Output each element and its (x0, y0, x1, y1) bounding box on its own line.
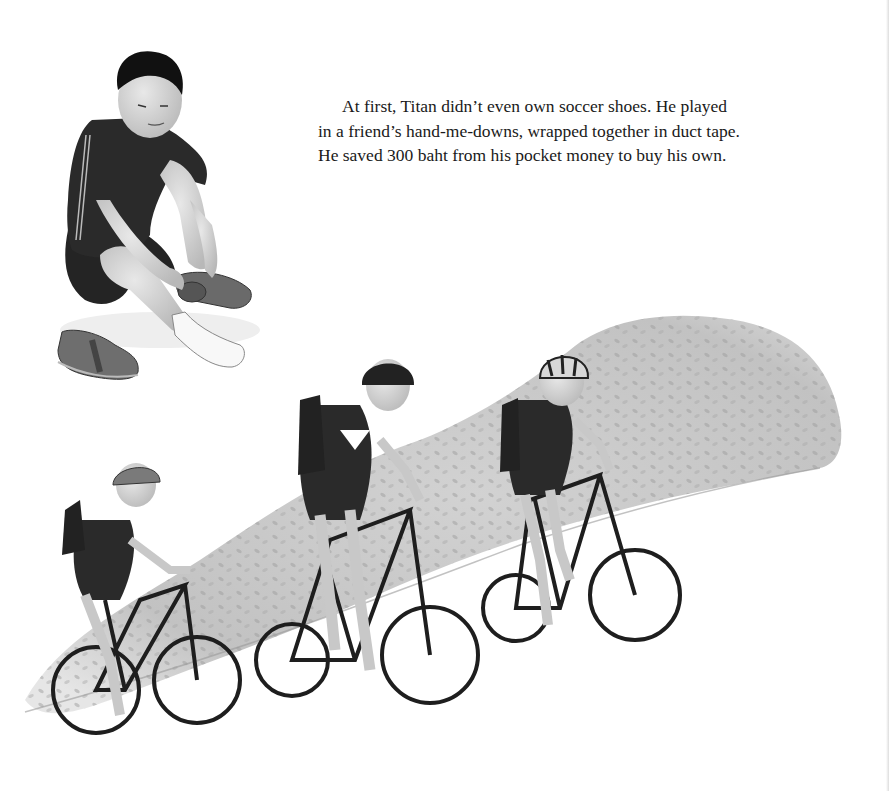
book-page: At first, Titan didn’t even own soccer s… (0, 0, 889, 791)
story-text-line: He saved 300 baht from his pocket money … (318, 143, 778, 168)
story-text: At first, Titan didn’t even own soccer s… (318, 94, 778, 168)
story-text-line: in a friend’s hand-me-downs, wrapped tog… (318, 119, 778, 144)
boy-putting-on-shoe (60, 51, 260, 367)
story-text-line: At first, Titan didn’t even own soccer s… (318, 94, 778, 119)
